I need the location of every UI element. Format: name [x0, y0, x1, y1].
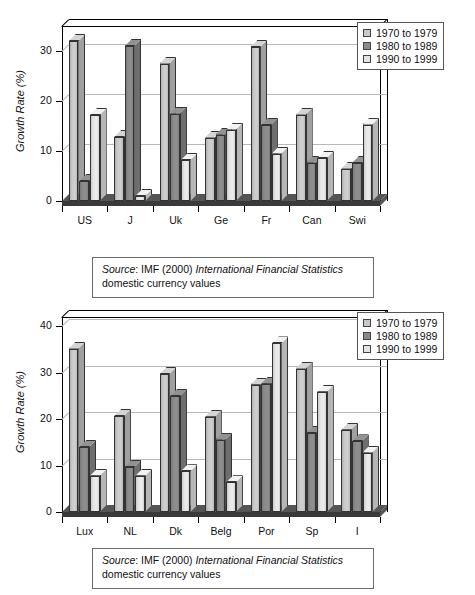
- legend-item-1[interactable]: 1980 to 1989: [363, 39, 437, 52]
- y-tick-mark-40: [56, 326, 62, 327]
- bar-side: [134, 39, 141, 201]
- bar-side: [327, 385, 334, 512]
- y-tick-label-20: 20: [24, 94, 52, 106]
- bar-side: [372, 446, 379, 512]
- legend[interactable]: 1970 to 19791980 to 19891990 to 1999: [357, 22, 444, 70]
- bar-side: [190, 464, 197, 512]
- plot-top-back-edge: [69, 19, 387, 20]
- x-tick-label-US: US: [62, 214, 107, 226]
- bar-I-1980-to-1989: [352, 434, 362, 512]
- y-tick-label-10: 10: [24, 459, 52, 471]
- source-line-2: domestic currency values: [102, 277, 364, 291]
- legend-swatch-icon: [363, 332, 371, 340]
- source-line-1: Source: IMF (2000) International Financi…: [102, 554, 364, 568]
- bar-Can-1990-to-1999: [317, 151, 327, 201]
- y-tick-label-30: 30: [24, 44, 52, 56]
- gridline-30: [69, 366, 387, 367]
- bar-front: [307, 433, 317, 512]
- bar-Uk-1990-to-1999: [181, 153, 191, 201]
- x-tick-label-J: J: [107, 214, 152, 226]
- x-tick-mark-7: [380, 206, 381, 212]
- x-tick-label-Dk: Dk: [153, 525, 198, 537]
- legend-label: 1970 to 1979: [376, 317, 437, 329]
- bar-Fr-1980-to-1989: [261, 118, 271, 201]
- y-tick-label-0: 0: [24, 194, 52, 206]
- y-axis-label: Growth Rate (%): [14, 371, 26, 453]
- bar-Por-1980-to-1989: [261, 377, 271, 512]
- bar-front: [341, 430, 351, 512]
- bar-Belg-1990-to-1999: [226, 475, 236, 512]
- y-axis-label: Growth Rate (%): [14, 70, 26, 152]
- x-tick-mark-5: [289, 206, 290, 212]
- bar-front: [170, 114, 180, 202]
- legend-item-1[interactable]: 1980 to 1989: [363, 329, 437, 342]
- legend-swatch-icon: [363, 345, 371, 353]
- legend-item-2[interactable]: 1990 to 1999: [363, 52, 437, 65]
- x-tick-label-Can: Can: [289, 214, 334, 226]
- x-tick-label-Sp: Sp: [289, 525, 334, 537]
- y-tick-mark-10: [56, 151, 62, 152]
- bar-front: [352, 441, 362, 512]
- bar-front: [114, 416, 124, 512]
- legend-swatch-icon: [363, 42, 371, 50]
- legend-label: 1980 to 1989: [376, 40, 437, 52]
- bar-Uk-1980-to-1989: [170, 107, 180, 202]
- bar-front: [181, 160, 191, 201]
- x-tick-mark-4: [244, 206, 245, 212]
- figure-page: 0102030Growth Rate (%)USJUkGeFrCanSwi197…: [0, 0, 475, 595]
- bar-Por-1990-to-1999: [272, 336, 282, 512]
- bar-Dk-1990-to-1999: [181, 464, 191, 512]
- y-tick-label-10: 10: [24, 144, 52, 156]
- bar-front: [261, 125, 271, 201]
- bar-Ge-1970-to-1979: [205, 131, 215, 202]
- bar-front: [226, 482, 236, 512]
- x-tick-label-Ge: Ge: [198, 214, 243, 226]
- legend-item-0[interactable]: 1970 to 1979: [363, 26, 437, 39]
- x-tick-mark-2: [153, 517, 154, 523]
- source-prefix: Source: [102, 554, 135, 566]
- bar-Fr-1970-to-1979: [251, 40, 261, 201]
- legend-item-0[interactable]: 1970 to 1979: [363, 316, 437, 329]
- bar-Swi-1980-to-1989: [352, 156, 362, 201]
- y-tick-label-20: 20: [24, 412, 52, 424]
- bar-J-1980-to-1989: [125, 39, 135, 201]
- bar-J-1990-to-1999: [135, 189, 145, 201]
- bar-NL-1970-to-1979: [114, 409, 124, 512]
- bar-front: [69, 41, 79, 201]
- y-tick-mark-10: [56, 466, 62, 467]
- legend-label: 1980 to 1989: [376, 330, 437, 342]
- source-publication: International Financial Statistics: [195, 263, 343, 275]
- legend[interactable]: 1970 to 19791980 to 19891990 to 1999: [357, 312, 444, 360]
- bar-front: [205, 138, 215, 202]
- bar-Lux-1990-to-1999: [90, 469, 100, 512]
- legend-item-2[interactable]: 1990 to 1999: [363, 342, 437, 355]
- legend-label: 1970 to 1979: [376, 27, 437, 39]
- bar-front: [216, 440, 226, 512]
- source-prefix: Source: [102, 263, 135, 275]
- bar-Belg-1970-to-1979: [205, 410, 215, 512]
- source-line-1: Source: IMF (2000) International Financi…: [102, 263, 364, 277]
- bar-front: [352, 163, 362, 201]
- bar-J-1970-to-1979: [114, 130, 124, 201]
- x-tick-label-I: I: [335, 525, 380, 537]
- bar-Ge-1980-to-1989: [216, 128, 226, 202]
- x-tick-label-Uk: Uk: [153, 214, 198, 226]
- bar-front: [90, 115, 100, 201]
- bar-Por-1970-to-1979: [251, 378, 261, 512]
- x-tick-mark-0: [62, 206, 63, 212]
- x-tick-mark-3: [198, 517, 199, 523]
- bar-NL-1980-to-1989: [125, 460, 135, 512]
- bar-Belg-1980-to-1989: [216, 433, 226, 512]
- bar-front: [181, 471, 191, 512]
- chart-floor-front: [62, 201, 380, 206]
- bar-Can-1980-to-1989: [307, 156, 317, 202]
- y-tick-label-40: 40: [24, 319, 52, 331]
- bar-front: [363, 125, 373, 202]
- bar-US-1990-to-1999: [90, 108, 100, 201]
- x-tick-label-Fr: Fr: [244, 214, 289, 226]
- bar-front: [307, 163, 317, 202]
- bar-Uk-1970-to-1979: [160, 57, 170, 202]
- source-publication: International Financial Statistics: [195, 554, 343, 566]
- y-tick-mark-0: [56, 512, 62, 513]
- bar-side: [100, 469, 107, 512]
